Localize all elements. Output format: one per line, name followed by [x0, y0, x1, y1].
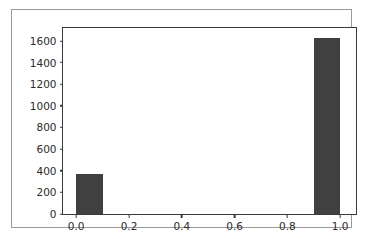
- x-tick-0.4: 0.4: [173, 214, 190, 231]
- x-tick-label: 0.2: [121, 218, 138, 232]
- y-tick-label: 1200: [30, 79, 60, 90]
- y-tick-label: 200: [36, 187, 59, 198]
- plot-area: [63, 28, 356, 214]
- y-tick-label: 600: [36, 144, 59, 155]
- y-tick-label: 0: [50, 209, 60, 220]
- y-tick-200: 200: [36, 187, 63, 198]
- y-tick-1200: 1200: [30, 79, 63, 90]
- x-tick-label: 0.0: [68, 218, 85, 232]
- y-tick-label: 1400: [30, 57, 60, 68]
- y-tick-800: 800: [36, 122, 63, 133]
- y-tick-label: 800: [36, 122, 59, 133]
- y-tick-400: 400: [36, 165, 63, 176]
- bar-1: [314, 38, 340, 214]
- figure: 0 200 400 600 800 1000: [0, 0, 365, 239]
- x-tick-0.6: 0.6: [226, 214, 243, 231]
- x-tick-label: 0.8: [279, 218, 296, 232]
- y-tick-600: 600: [36, 144, 63, 155]
- x-tick-label: 0.4: [173, 218, 190, 232]
- y-tick-label: 1600: [30, 36, 60, 47]
- y-tick-0: 0: [50, 209, 63, 220]
- x-tick-1.0: 1.0: [332, 214, 349, 231]
- y-tick-label: 400: [36, 165, 59, 176]
- y-tick-1400: 1400: [30, 57, 63, 68]
- x-tick-0.0: 0.0: [68, 214, 85, 231]
- plot-axes: 0 200 400 600 800 1000: [62, 27, 357, 215]
- bar-0: [76, 174, 102, 214]
- x-tick-0.8: 0.8: [279, 214, 296, 231]
- x-tick-0.2: 0.2: [121, 214, 138, 231]
- y-tick-1600: 1600: [30, 36, 63, 47]
- x-tick-label: 1.0: [332, 218, 349, 232]
- y-tick-label: 1000: [30, 101, 60, 112]
- y-tick-1000: 1000: [30, 101, 63, 112]
- figure-border: 0 200 400 600 800 1000: [11, 9, 352, 228]
- x-tick-label: 0.6: [226, 218, 243, 232]
